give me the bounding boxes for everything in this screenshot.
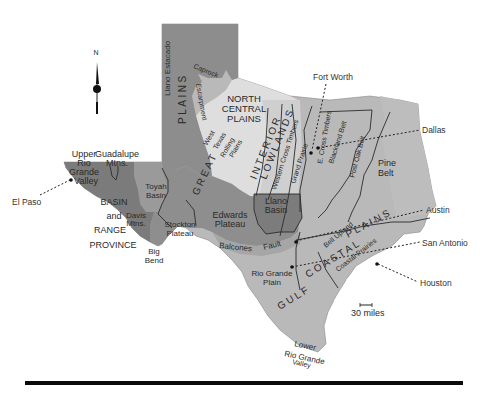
- label-plains: PLAINS: [177, 73, 188, 124]
- label-guadalupe-mtns: Mtns.: [106, 158, 128, 168]
- compass-n-label: N: [93, 49, 98, 56]
- label-stockton-plateau: Plateau: [166, 229, 193, 238]
- label-province: PROVINCE: [89, 240, 136, 250]
- texas-physiographic-map: N 30 miles El Paso Fort Worth Dallas Aus…: [0, 0, 488, 397]
- label-llano-estacado: Llano Estacado: [163, 40, 172, 96]
- label-rio-grande-plain: Plain: [263, 278, 281, 287]
- scale-bar: 30 miles: [351, 303, 385, 318]
- label-belt: Belt: [378, 168, 394, 178]
- label-big: Big: [148, 247, 160, 256]
- bottom-rule-divider: [25, 381, 463, 385]
- north-arrow-compass: N: [93, 49, 101, 114]
- el-paso-leader: [40, 180, 70, 195]
- label-central-plains: PLAINS: [227, 113, 261, 124]
- label-rio-grande: Rio Grande: [252, 269, 293, 278]
- city-label-san-antonio: San Antonio: [422, 238, 468, 248]
- label-basin: BASIN: [100, 197, 127, 207]
- compass-center-icon: [93, 85, 101, 93]
- city-label-el-paso: El Paso: [12, 197, 42, 207]
- city-label-houston: Houston: [420, 278, 452, 288]
- scale-label: 30 miles: [351, 308, 385, 318]
- label-range: RANGE: [94, 225, 126, 235]
- label-stockton: Stockton: [164, 220, 195, 229]
- city-label-dallas: Dallas: [422, 125, 446, 135]
- label-bend: Bend: [145, 256, 164, 265]
- label-and: and: [106, 211, 121, 221]
- label-toyah-basin: Basin: [146, 191, 166, 200]
- label-pine: Pine: [378, 158, 396, 168]
- city-label-austin: Austin: [426, 205, 450, 215]
- label-valley: Valley: [74, 176, 98, 186]
- city-label-fort-worth: Fort Worth: [313, 72, 353, 82]
- label-toyah: Toyah: [145, 182, 166, 191]
- label-davis-mtns: Mtns.: [126, 219, 146, 228]
- houston-leader: [378, 264, 418, 282]
- label-llano-basin: Basin: [265, 205, 288, 215]
- north-arrow-icon: [96, 62, 99, 84]
- label-edwards-plateau: Plateau: [215, 219, 246, 229]
